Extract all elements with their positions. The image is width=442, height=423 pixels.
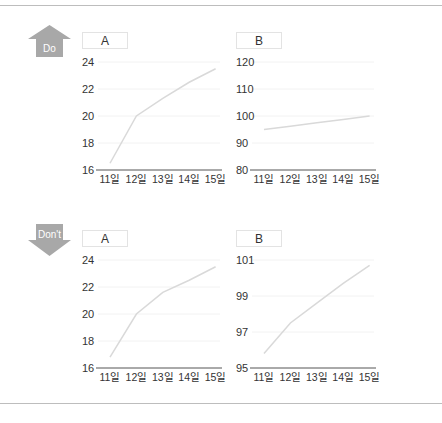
- y-tick-label: 95: [236, 362, 248, 374]
- y-tick-label: 24: [82, 254, 94, 266]
- top-divider: [0, 5, 442, 6]
- y-tick-label: 24: [82, 56, 94, 68]
- do-arrow-up-icon: Do: [28, 25, 71, 61]
- x-tick-label: 12일: [126, 371, 148, 383]
- x-tick-label: 13일: [152, 371, 174, 383]
- dont-arrow-down-icon: Don't: [28, 224, 71, 260]
- chart-do-a: A161820222411일12일13일14일15일: [78, 28, 228, 197]
- x-tick-label: 14일: [332, 173, 354, 185]
- data-line: [110, 267, 216, 357]
- y-tick-label: 18: [82, 137, 94, 149]
- x-tick-label: 15일: [359, 173, 381, 185]
- chart-do-b: B809010011012011일12일13일14일15일: [232, 28, 382, 197]
- x-tick-label: 11일: [100, 173, 121, 185]
- y-tick-label: 90: [236, 137, 248, 149]
- y-tick-label: 20: [82, 308, 94, 320]
- y-tick-label: 16: [82, 362, 94, 374]
- x-tick-label: 15일: [359, 371, 381, 383]
- x-tick-label: 14일: [178, 371, 200, 383]
- dont-badge-label: Don't: [38, 229, 61, 240]
- y-tick-label: 22: [82, 281, 94, 293]
- x-tick-label: 12일: [280, 371, 302, 383]
- y-tick-label: 120: [236, 56, 254, 68]
- chart-title: B: [255, 232, 263, 246]
- y-tick-label: 80: [236, 164, 248, 176]
- x-tick-label: 11일: [254, 173, 275, 185]
- y-tick-label: 101: [236, 254, 254, 266]
- y-tick-label: 16: [82, 164, 94, 176]
- chart-title: A: [101, 232, 109, 246]
- x-tick-label: 11일: [100, 371, 121, 383]
- do-badge-label: Do: [43, 43, 56, 54]
- data-line: [264, 265, 370, 353]
- chart-dont-a: A161820222411일12일13일14일15일: [78, 226, 228, 395]
- x-tick-label: 11일: [254, 371, 275, 383]
- x-tick-label: 15일: [205, 371, 227, 383]
- y-tick-label: 97: [236, 326, 248, 338]
- data-line: [264, 116, 370, 130]
- x-tick-label: 13일: [306, 371, 328, 383]
- x-tick-label: 12일: [280, 173, 302, 185]
- x-tick-label: 12일: [126, 173, 148, 185]
- x-tick-label: 14일: [332, 371, 354, 383]
- y-tick-label: 20: [82, 110, 94, 122]
- y-tick-label: 18: [82, 335, 94, 347]
- chart-dont-b: B95979910111일12일13일14일15일: [232, 226, 382, 395]
- y-tick-label: 110: [236, 83, 254, 95]
- chart-title: A: [101, 34, 109, 48]
- y-tick-label: 99: [236, 290, 248, 302]
- chart-title: B: [255, 34, 263, 48]
- bottom-divider: [0, 403, 442, 404]
- y-tick-label: 22: [82, 83, 94, 95]
- x-tick-label: 13일: [152, 173, 174, 185]
- x-tick-label: 14일: [178, 173, 200, 185]
- y-tick-label: 100: [236, 110, 254, 122]
- do-dont-guide: Do Don't A161820222411일12일13일14일15일 B809…: [0, 0, 442, 423]
- x-tick-label: 13일: [306, 173, 328, 185]
- x-tick-label: 15일: [205, 173, 227, 185]
